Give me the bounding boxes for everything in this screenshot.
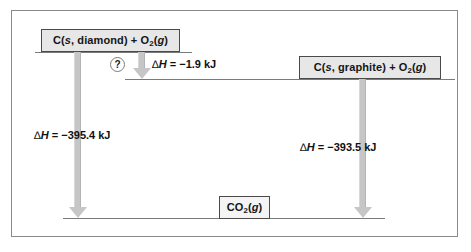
arrow-shaft (359, 67, 366, 208)
arrow-head (133, 68, 151, 79)
species-label-graphite: C(s, graphite) + O2(g) (314, 61, 427, 75)
equals-sign: = (167, 58, 180, 70)
question-mark-badge: ? (110, 57, 125, 72)
delta-h-value: −393.5 kJ (327, 141, 376, 153)
delta-symbol: ∆ (300, 141, 307, 153)
delta-h-graphite-to-product: ∆H = −393.5 kJ (300, 141, 376, 153)
enthalpy-symbol: H (41, 129, 49, 141)
delta-symbol: ∆ (34, 129, 41, 141)
equals-sign: = (315, 141, 328, 153)
enthalpy-symbol: H (159, 58, 167, 70)
delta-symbol: ∆ (152, 58, 159, 70)
enthalpy-diagram-figure: C(s, diamond) + O2(g) C(s, graphite) + O… (0, 0, 471, 252)
species-label-product: CO2(g) (227, 201, 263, 215)
level-line-diamond (35, 52, 192, 53)
delta-h-value: −395.4 kJ (61, 129, 110, 141)
enthalpy-symbol: H (307, 141, 315, 153)
species-label-diamond: C(s, diamond) + O2(g) (53, 34, 168, 48)
arrow-head (69, 207, 87, 218)
level-line-graphite (125, 79, 455, 80)
species-box-product: CO2(g) (219, 196, 270, 219)
question-mark-glyph: ? (114, 59, 120, 70)
delta-h-diamond-to-product: ∆H = −395.4 kJ (34, 129, 110, 141)
equals-sign: = (49, 129, 62, 141)
species-box-graphite: C(s, graphite) + O2(g) (299, 56, 441, 79)
delta-h-value: −1.9 kJ (179, 58, 216, 70)
delta-h-diamond-to-graphite: ∆H = −1.9 kJ (152, 58, 216, 70)
species-box-diamond: C(s, diamond) + O2(g) (41, 29, 180, 52)
arrow-shaft (74, 40, 81, 208)
arrow-shaft (138, 50, 145, 69)
arrow-head (354, 207, 372, 218)
